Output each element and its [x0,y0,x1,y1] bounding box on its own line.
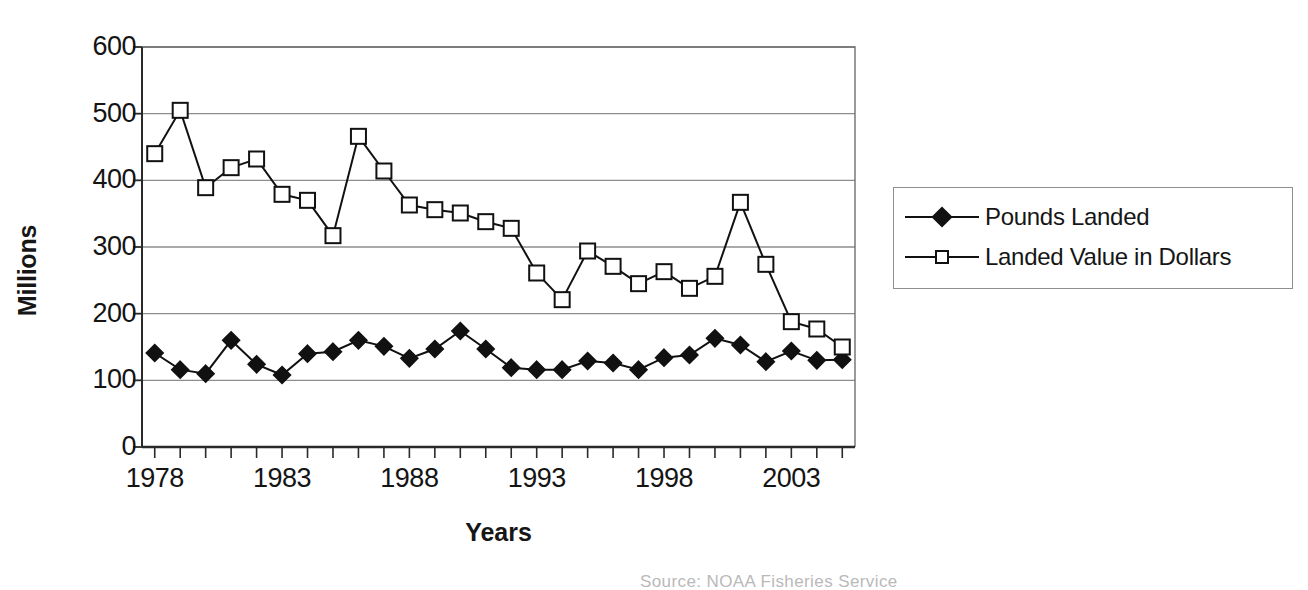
x-tick-label: 1983 [222,463,342,493]
x-axis-tick-labels: 197819831988199319982003 [0,0,1308,590]
x-tick-label: 1998 [604,463,724,493]
chart-legend: Pounds Landed Landed Value in Dollars [893,187,1293,289]
x-tick-label: 1978 [95,463,215,493]
legend-marker-open-square-icon [905,245,979,269]
legend-item-pounds-landed[interactable]: Pounds Landed [894,197,1292,237]
legend-label-landed-value: Landed Value in Dollars [979,244,1231,270]
x-tick-label: 2003 [731,463,851,493]
legend-marker-filled-diamond-icon [905,205,979,229]
legend-item-landed-value[interactable]: Landed Value in Dollars [894,237,1292,277]
x-axis-title-label: Years [465,518,532,546]
x-tick-label: 1993 [477,463,597,493]
x-axis-title: Years [142,518,855,547]
source-note: Source: NOAA Fisheries Service [640,572,898,590]
fishery-landings-chart: Millions 0100200300400500600 19781983198… [0,0,1308,590]
x-tick-label: 1988 [349,463,469,493]
legend-label-pounds-landed: Pounds Landed [979,204,1149,230]
